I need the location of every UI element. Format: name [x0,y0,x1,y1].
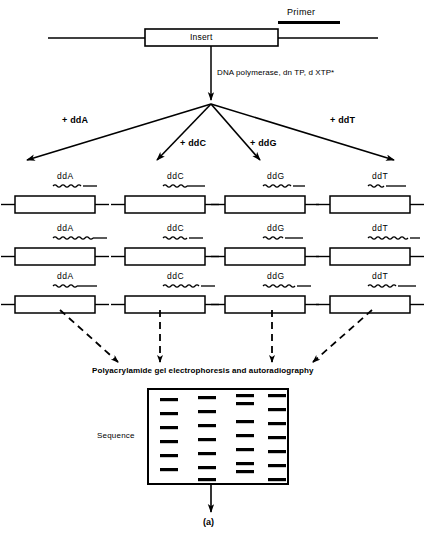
gel-band [236,462,254,465]
nascent-strand-wave [263,185,291,187]
nascent-strand-wave [163,237,187,239]
sequencing-diagram: Primer Insert DNA polymerase, dn TP, d X… [0,0,424,534]
fragment-terminator-label: ddC [167,172,184,181]
sequence-label: Sequence [97,432,135,440]
fragment-terminator-label: ddG [267,224,285,233]
fragment-rows [1,185,424,313]
fragment-box [125,248,205,265]
fragment-box [225,248,305,265]
gel-band [268,436,286,439]
fragment-box [330,296,410,313]
nascent-strand-wave [163,285,199,287]
feed-arrow-ddA [60,310,118,362]
gel-band [198,410,216,413]
gel-band [268,422,286,425]
branch-label-ddG: + ddG [250,139,277,148]
gel-band [236,394,254,397]
gel-band [236,470,254,473]
nascent-strand-wave [53,185,81,187]
gel-band [160,398,178,401]
branch-arrow-ddT [211,104,394,160]
fragment-terminator-label: ddT [372,172,388,181]
nascent-strand-wave [263,237,283,239]
nascent-strand-wave [53,237,93,239]
fragment-box [225,196,305,213]
gel-band [268,464,286,467]
gel-band [198,424,216,427]
enzyme-label: DNA polymerase, dn TP, d XTP* [217,69,334,77]
nascent-strand-wave [368,185,384,187]
fragment-terminator-label: ddC [167,224,184,233]
fragment-terminator-label: ddG [267,172,285,181]
fragment-box [125,196,205,213]
gel-band [198,478,216,481]
fragment-terminator-label: ddA [57,224,74,233]
fragment-box [15,296,95,313]
gel-band [198,466,216,469]
fragment-terminator-label: ddC [167,272,184,281]
gel-band [160,426,178,429]
fragment-terminator-label: ddG [267,272,285,281]
gel-band [268,478,286,481]
diagram-canvas [0,0,424,534]
gel-band [198,452,216,455]
nascent-strand-wave [368,285,396,287]
branch-label-ddT: + ddT [330,116,355,125]
fragment-terminator-label: ddA [57,172,74,181]
gel-band [236,402,254,405]
nascent-strand-wave [368,237,408,239]
nascent-strand-wave [53,285,77,287]
gel-band [160,412,178,415]
gel-band [160,440,178,443]
gel-band [160,468,178,471]
branch-label-ddC: + ddC [180,139,206,148]
gel-band [236,434,254,437]
fragment-box [330,196,410,213]
gel-title: Polyacrylamide gel electrophoresis and a… [92,367,313,375]
fragment-box [15,196,95,213]
gel-band [236,448,254,451]
gel-feed-arrows [60,310,372,362]
nascent-strand-wave [263,285,295,287]
gel-band [268,408,286,411]
gel-band [268,394,286,397]
branch-arrow-ddG [211,104,260,160]
fragment-box [225,296,305,313]
fragment-terminator-label: ddT [372,224,388,233]
fragment-terminator-label: ddA [57,272,74,281]
gel-band [236,420,254,423]
primer-label: Primer [287,8,315,17]
gel-band [198,396,216,399]
fragment-box [15,248,95,265]
feed-arrow-ddT [313,310,372,362]
gel-band [160,454,178,457]
fragment-box [125,296,205,313]
insert-label: Insert [190,33,212,42]
branch-label-ddA: + ddA [62,116,88,125]
gel-band [268,450,286,453]
nascent-strand-wave [163,185,187,187]
fragment-box [330,248,410,265]
branch-arrows [27,104,394,160]
figure-caption: (a) [203,518,214,527]
primer-bar [278,21,340,24]
fragment-terminator-label: ddT [372,272,388,281]
gel-band [198,438,216,441]
